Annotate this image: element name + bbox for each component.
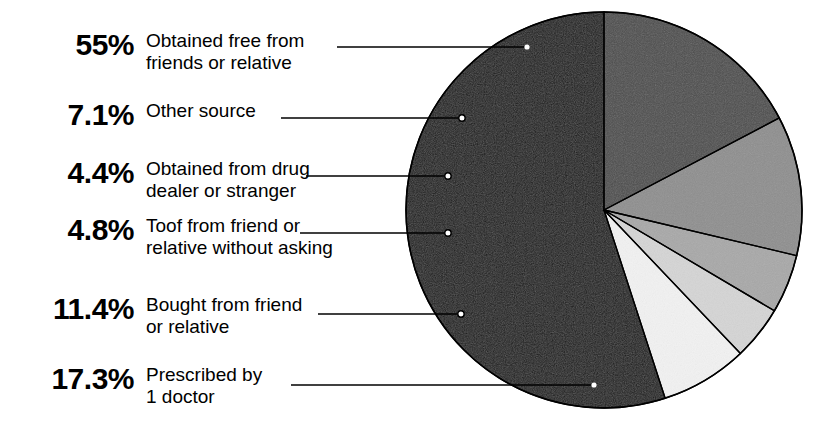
- slice-marker-circle: [445, 230, 451, 236]
- legend-percent: 55%: [34, 30, 134, 60]
- slice-marker-circle: [445, 173, 451, 179]
- legend-item-other-source[interactable]: 7.1% Other source: [34, 100, 256, 130]
- legend-item-prescribed-by-one-doctor[interactable]: 17.3% Prescribed by 1 doctor: [18, 364, 262, 408]
- legend-percent: 7.1%: [34, 100, 134, 130]
- slice-marker-dot: [591, 382, 596, 387]
- legend-percent: 17.3%: [18, 364, 134, 394]
- legend-percent: 4.8%: [34, 215, 134, 245]
- pie-chart-page: 55% Obtained free from friends or relati…: [0, 0, 839, 428]
- legend-label: Toof from friend or relative without ask…: [146, 215, 333, 259]
- legend-item-bought-from-friend[interactable]: 11.4% Bought from friend or relative: [18, 294, 302, 338]
- slice-marker-circle: [458, 311, 464, 317]
- slice-marker-dot: [524, 44, 529, 49]
- legend-label: Obtained free from friends or relative: [146, 30, 304, 74]
- legend-label: Other source: [146, 100, 256, 122]
- legend-percent: 11.4%: [18, 294, 134, 324]
- legend-item-took-from-friend-without-asking[interactable]: 4.8% Toof from friend or relative withou…: [34, 215, 333, 259]
- slice-marker-circle: [459, 115, 465, 121]
- legend-label: Prescribed by 1 doctor: [146, 364, 262, 408]
- legend-label: Obtained from drug dealer or stranger: [146, 158, 310, 202]
- legend-item-obtained-from-drug-dealer[interactable]: 4.4% Obtained from drug dealer or strang…: [34, 158, 310, 202]
- legend-item-obtained-free-from-friends[interactable]: 55% Obtained free from friends or relati…: [34, 30, 304, 74]
- legend-label: Bought from friend or relative: [146, 294, 302, 338]
- legend-percent: 4.4%: [34, 158, 134, 188]
